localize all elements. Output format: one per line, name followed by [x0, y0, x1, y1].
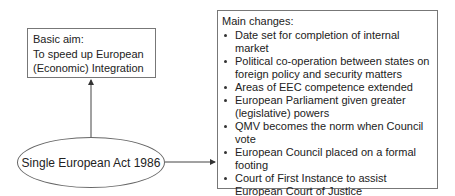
main-changes-title: Main changes:	[222, 14, 433, 28]
list-item: European Parliament given greater (legis…	[222, 94, 433, 120]
list-item: Court of First Instance to assist Europe…	[222, 172, 433, 196]
main-changes-box: Main changes: Date set for completion of…	[217, 10, 438, 189]
list-item: European Council placed on a formal foot…	[222, 146, 433, 172]
basic-aim-title: Basic aim:	[33, 32, 151, 46]
list-item: Date set for completion of internal mark…	[222, 29, 433, 55]
list-item: QMV becomes the norm when Council vote	[222, 120, 433, 146]
single-european-act-node: Single European Act 1986	[17, 137, 165, 188]
list-item: Areas of EEC competence extended	[222, 81, 433, 94]
list-item: Political co-operation between states on…	[222, 55, 433, 81]
basic-aim-body: To speed up European (Economic) Integrat…	[33, 48, 151, 75]
node-label: Single European Act 1986	[22, 156, 161, 170]
main-changes-list: Date set for completion of internal mark…	[222, 29, 433, 196]
basic-aim-box: Basic aim: To speed up European (Economi…	[27, 28, 156, 78]
